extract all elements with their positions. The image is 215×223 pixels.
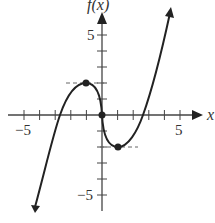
- local-max-point: [83, 80, 90, 87]
- x-axis-label: x: [206, 106, 214, 123]
- y-axis-label: f(x): [87, 0, 109, 14]
- y-axis-arrow-icon: [97, 12, 107, 24]
- curve-arrow-down-icon: [31, 205, 40, 213]
- y-axis: 5 −5 f(x): [77, 0, 109, 211]
- origin-point: [99, 112, 106, 119]
- x-tick-label-neg5: −5: [15, 122, 31, 138]
- x-axis: −5 5 x: [8, 106, 214, 138]
- y-tick-label-neg5: −5: [77, 187, 93, 203]
- x-axis-arrow-icon: [192, 110, 203, 120]
- local-min-point: [115, 144, 122, 151]
- function-graph: −5 5 x 5 −5 f(x): [0, 0, 215, 223]
- y-tick-label-5: 5: [87, 27, 95, 43]
- curve-arrow-up-icon: [165, 7, 174, 18]
- x-tick-label-5: 5: [175, 122, 183, 138]
